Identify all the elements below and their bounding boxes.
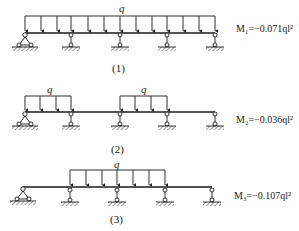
roller-support — [62, 112, 80, 130]
roller-support — [62, 33, 80, 51]
moment-label-3: M₃=−0.107ql² — [234, 191, 291, 201]
moment-label-1: M₁=−0.071ql² — [236, 24, 293, 34]
roller-support — [111, 112, 129, 130]
roller-support — [158, 112, 176, 130]
roller-support — [61, 188, 79, 206]
roller-support — [206, 112, 224, 130]
roller-support — [158, 33, 176, 51]
distributed-load-2a — [25, 96, 71, 110]
caption-1: (1) — [112, 63, 125, 74]
pin-support — [10, 187, 36, 205]
moment-label-2: M₂=−0.036ql² — [236, 115, 293, 125]
roller-support — [156, 188, 174, 206]
distributed-load-2b — [120, 96, 167, 110]
roller-support — [108, 188, 126, 206]
distributed-load-3 — [70, 170, 165, 185]
roller-support — [203, 188, 221, 206]
pin-support — [12, 33, 38, 51]
diagram-2 — [12, 96, 224, 130]
diagram-1 — [12, 16, 224, 51]
caption-2: (2) — [111, 144, 124, 155]
load-label-q: q — [141, 84, 147, 95]
caption-3: (3) — [110, 214, 123, 225]
load-label-q: q — [47, 84, 53, 95]
load-label-q: q — [119, 3, 125, 14]
roller-support — [206, 33, 224, 51]
distributed-load-1 — [25, 16, 215, 31]
load-label-q: q — [114, 159, 120, 170]
pin-support — [12, 112, 38, 130]
roller-support — [111, 33, 129, 51]
diagram-3 — [10, 170, 221, 206]
